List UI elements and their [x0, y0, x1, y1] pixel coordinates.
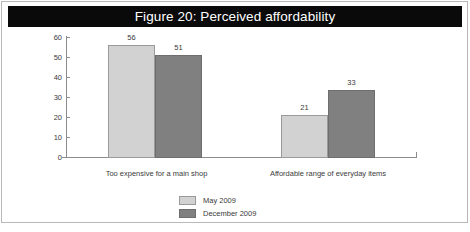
bar-may-2009-too-expensive[interactable]: [108, 45, 155, 158]
ytick-label-20: 20: [40, 114, 62, 122]
x-category-label-affordable-range: Affordable range of everyday items: [245, 170, 411, 178]
ytick-label-40: 40: [40, 74, 62, 82]
bar-value-56: 56: [108, 34, 155, 42]
legend-item-december-2009[interactable]: December 2009: [179, 209, 256, 218]
legend-label-december-2009: December 2009: [203, 210, 256, 218]
legend-item-may-2009[interactable]: May 2009: [179, 196, 256, 205]
bar-may-2009-affordable-range[interactable]: [281, 115, 328, 158]
bar-value-33: 33: [328, 79, 375, 87]
chart-legend: May 2009 December 2009: [179, 196, 256, 218]
bar-december-2009-affordable-range[interactable]: [328, 90, 375, 158]
bar-value-21: 21: [281, 104, 328, 112]
legend-swatch-icon-may-2009: [179, 196, 196, 205]
bar-december-2009-too-expensive[interactable]: [155, 55, 202, 158]
y-axis-line: [66, 36, 67, 158]
x-axis-endcap: [416, 152, 417, 158]
bar-value-51: 51: [155, 44, 202, 52]
ytick-label-50: 50: [40, 54, 62, 62]
figure-container: Figure 20: Perceived affordability 60 50…: [0, 0, 470, 232]
ytick-label-60: 60: [40, 34, 62, 42]
ytick-label-10: 10: [40, 134, 62, 142]
ytick-label-0: 0: [40, 154, 62, 162]
legend-swatch-icon-december-2009: [179, 209, 196, 218]
legend-label-may-2009: May 2009: [203, 197, 236, 205]
ytick-label-30: 30: [40, 94, 62, 102]
x-category-label-too-expensive: Too expensive for a main shop: [75, 170, 238, 178]
